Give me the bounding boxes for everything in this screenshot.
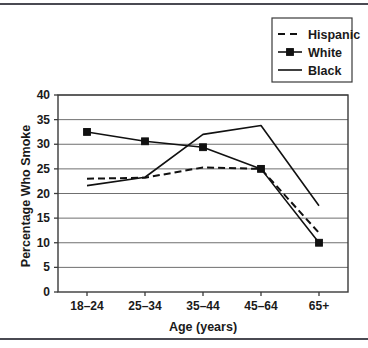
bottom-divider-rule — [0, 338, 368, 340]
legend-label-hispanic: Hispanic — [308, 28, 360, 42]
legend-label-black: Black — [308, 64, 341, 78]
chart-legend: HispanicWhiteBlack — [272, 18, 360, 82]
y-tick-label: 35 — [37, 113, 51, 127]
y-tick-label: 5 — [43, 260, 50, 274]
y-tick-label: 30 — [37, 137, 51, 151]
data-point-marker-white — [258, 165, 265, 172]
series-line-hispanic — [87, 167, 319, 233]
data-point-marker-white — [84, 129, 91, 136]
data-point-marker-white — [200, 144, 207, 151]
x-axis-title: Age (years) — [169, 320, 237, 334]
x-tick-label: 45–64 — [244, 299, 278, 313]
legend-label-white: White — [308, 46, 342, 60]
data-point-marker-white — [316, 239, 323, 246]
y-tick-label: 0 — [43, 285, 50, 299]
y-tick-label: 20 — [37, 187, 51, 201]
y-tick-label: 40 — [37, 88, 51, 102]
y-tick-label: 15 — [37, 211, 51, 225]
top-divider-rule — [0, 3, 368, 5]
y-axis-title: Percentage Who Smoke — [19, 125, 33, 267]
x-tick-label: 18–24 — [70, 299, 104, 313]
x-axis-tick-labels: 18–2425–3435–4445–6465+ — [70, 292, 329, 313]
y-tick-label: 25 — [37, 162, 51, 176]
legend-marker-white — [287, 49, 294, 56]
data-series-layer — [84, 126, 323, 247]
x-tick-label: 25–34 — [128, 299, 162, 313]
y-axis-tick-labels: 0510152025303540 — [37, 88, 51, 299]
x-tick-label: 65+ — [309, 299, 329, 313]
smoking-by-age-line-chart: 0510152025303540 18–2425–3435–4445–6465+… — [0, 0, 368, 348]
figure-container: 0510152025303540 18–2425–3435–4445–6465+… — [0, 0, 368, 348]
x-tick-label: 35–44 — [186, 299, 220, 313]
y-tick-label: 10 — [37, 236, 51, 250]
gridlines — [54, 95, 348, 292]
data-point-marker-white — [142, 138, 149, 145]
